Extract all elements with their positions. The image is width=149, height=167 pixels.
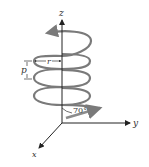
z-axis-label: z (58, 8, 64, 18)
radius-label: r (47, 57, 52, 66)
angle-arc (62, 108, 72, 113)
helix-diagram: z y x r p 70° (0, 0, 149, 167)
pitch-label: p (21, 65, 27, 75)
x-axis (39, 123, 62, 148)
x-axis-label: x (32, 150, 37, 159)
y-axis-label: y (132, 118, 139, 128)
angle-label: 70° (73, 106, 87, 115)
